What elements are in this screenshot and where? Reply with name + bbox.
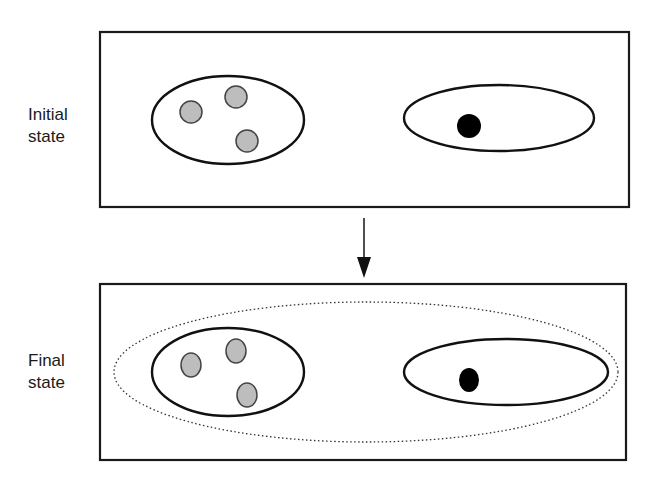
initial-label-line1: Initial <box>28 105 68 124</box>
final-gray-particle-2 <box>226 339 246 363</box>
arrow-head-icon <box>357 257 371 278</box>
initial-gray-particle-1 <box>180 101 202 123</box>
final-right-group-ellipse <box>404 339 608 405</box>
final-label-line1: Final <box>28 351 65 370</box>
final-black-particle <box>459 368 479 392</box>
final-state-box <box>100 284 626 460</box>
transition-arrow <box>357 218 371 278</box>
final-state-panel: Final state <box>28 284 626 460</box>
final-left-group-ellipse <box>152 328 304 416</box>
initial-black-particle <box>457 114 481 138</box>
initial-state-box <box>100 32 629 207</box>
initial-gray-particle-3 <box>236 130 258 152</box>
initial-gray-particle-2 <box>225 86 247 108</box>
final-label-line2: state <box>28 373 65 392</box>
initial-state-panel: Initial state <box>28 32 629 207</box>
state-transition-diagram: Initial state Final state <box>0 0 657 487</box>
initial-label-line2: state <box>28 127 65 146</box>
final-gray-particle-3 <box>237 383 257 407</box>
initial-right-group-ellipse <box>404 85 594 151</box>
final-gray-particle-1 <box>181 353 201 377</box>
